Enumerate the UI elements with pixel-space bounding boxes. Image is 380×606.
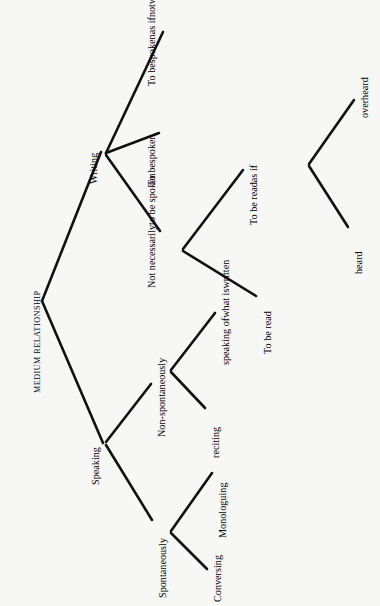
node-to-be-read-as-if[interactable]: To be read as if bbox=[248, 165, 259, 225]
node-label-line: Not necessarily bbox=[146, 225, 157, 288]
node-label-line: spoken bbox=[146, 34, 157, 63]
edge-tobereadasif-heard bbox=[309, 166, 348, 227]
node-speaking[interactable]: Speaking bbox=[90, 447, 101, 485]
node-label-line: to be spoken bbox=[146, 173, 157, 225]
node-label: Non-spontaneously bbox=[156, 358, 167, 437]
edge-root-speaking bbox=[42, 301, 103, 443]
node-label: MEDIUM RELATIONSHIP bbox=[33, 291, 42, 393]
node-label: Writing bbox=[88, 153, 99, 184]
node-label-line: as if bbox=[248, 165, 259, 182]
node-label-line: written bbox=[146, 0, 157, 4]
node-writing[interactable]: Writing bbox=[88, 153, 99, 184]
node-label: Conversing bbox=[212, 555, 223, 602]
node-conversing[interactable]: Conversing bbox=[212, 555, 223, 602]
node-medium-relationship[interactable]: MEDIUM RELATIONSHIP bbox=[33, 291, 42, 393]
edge-nonspont-reciting bbox=[171, 372, 205, 408]
node-not-necessarily-to-be-spoken[interactable]: Not necessarily to be spoken bbox=[146, 173, 157, 288]
node-to-be-spoken-as-if-not-written[interactable]: To be spoken as if not written bbox=[146, 0, 157, 86]
node-overheard[interactable]: overheard bbox=[359, 77, 370, 118]
node-label: Spontaneously bbox=[157, 538, 168, 598]
node-to-be-read[interactable]: To be read bbox=[262, 311, 273, 354]
node-label: Speaking bbox=[90, 447, 101, 485]
edge-speaking-non-spontaneously bbox=[106, 384, 151, 442]
node-speaking-of-what-is-written[interactable]: speaking of what is written bbox=[220, 260, 231, 365]
node-label-line: To be bbox=[146, 63, 157, 86]
edge-spont-monologuing bbox=[171, 473, 212, 531]
node-monologuing[interactable]: Monologuing bbox=[217, 483, 228, 538]
node-reciting[interactable]: reciting bbox=[210, 427, 221, 458]
node-label: reciting bbox=[210, 427, 221, 458]
edge-speaking-spontaneously bbox=[106, 445, 152, 520]
node-heard[interactable]: heard bbox=[353, 251, 364, 274]
node-spontaneously[interactable]: Spontaneously bbox=[157, 538, 168, 598]
node-label-line: as if bbox=[146, 17, 157, 34]
node-label-line: what is bbox=[220, 289, 231, 318]
node-label-line: speaking of bbox=[220, 318, 231, 365]
edge-notnec-to-be-read-as-if bbox=[183, 170, 243, 249]
node-non-spontaneously[interactable]: Non-spontaneously bbox=[156, 358, 167, 437]
node-label-line: written bbox=[220, 260, 231, 289]
edge-nonspont-speaking-of-what-is-written bbox=[171, 313, 215, 370]
diagram-canvas: MEDIUM RELATIONSHIP Writing Speaking To … bbox=[0, 0, 380, 606]
edge-tobereadasif-overheard bbox=[309, 100, 354, 164]
node-label-line: To be read bbox=[248, 182, 259, 225]
node-label-line: not bbox=[146, 4, 157, 17]
edge-spont-conversing bbox=[171, 533, 207, 569]
node-label: overheard bbox=[359, 77, 370, 118]
node-label: heard bbox=[353, 251, 364, 274]
node-label: Monologuing bbox=[217, 483, 228, 538]
tree-edges bbox=[0, 0, 380, 606]
node-label: To be read bbox=[262, 311, 273, 354]
node-label-line: spoken bbox=[146, 134, 157, 163]
